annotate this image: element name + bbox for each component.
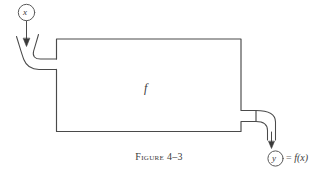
figure-caption-word: Figure [135, 151, 164, 162]
funnel-right-wall [33, 35, 56, 60]
input-arrow-head [23, 39, 29, 47]
input-variable-label: x [23, 8, 27, 17]
figure-caption-number: 4–3 [167, 151, 183, 162]
figure-caption: Figure4–3 [0, 151, 318, 162]
function-box-label: f [144, 82, 147, 94]
function-machine-figure: x y f = f(x) Figure4–3 [0, 0, 318, 182]
outlet-spout-inner-wall [256, 122, 268, 141]
output-arrow-head [269, 142, 275, 149]
function-box-outline [57, 39, 257, 132]
